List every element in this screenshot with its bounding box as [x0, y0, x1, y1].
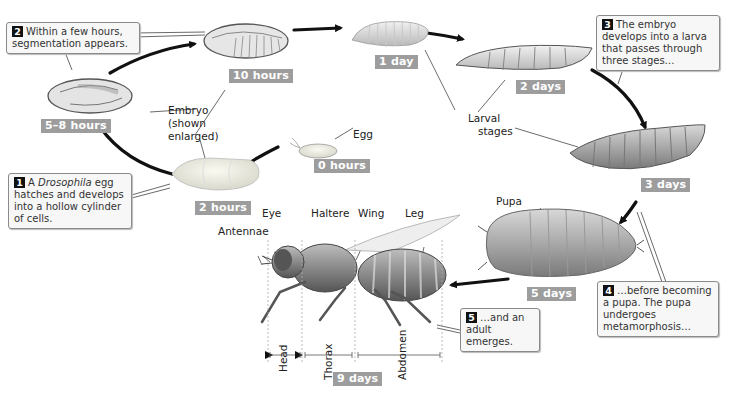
- label-larval-1: Larval: [468, 112, 500, 124]
- third-larva-illustration: [570, 125, 705, 169]
- pupa-illustration: [478, 209, 644, 277]
- label-larval-2: stages: [478, 125, 513, 137]
- segmenting-embryo-illustration: [48, 79, 132, 113]
- time-badge-5-days: 5 days: [527, 287, 576, 301]
- callout-number-4: 4: [603, 285, 614, 296]
- time-badge-10-hours: 10 hours: [229, 69, 293, 83]
- callout-4: 4…before becoming a pupa. The pupa under…: [597, 281, 719, 337]
- label-head: Head: [277, 345, 289, 372]
- segmented-embryo-illustration: [204, 24, 288, 58]
- label-eye: Eye: [262, 207, 281, 219]
- label-thorax: Thorax: [322, 344, 334, 380]
- callout-text-1-pre: A: [28, 177, 38, 188]
- time-badge-9-days: 9 days: [333, 372, 382, 386]
- label-leg: Leg: [405, 207, 424, 219]
- label-pupa: Pupa: [496, 195, 522, 207]
- callout-text-1-italic: Drosophila: [38, 177, 92, 188]
- callout-text-4: …before becoming a pupa. The pupa underg…: [603, 285, 712, 332]
- hollow-cylinder-illustration: [172, 158, 259, 190]
- callout-2: 2Within a few hours, segmentation appear…: [6, 22, 140, 54]
- egg-illustration: [290, 138, 337, 158]
- callout-text-3: The embryo develops into a larva that pa…: [602, 19, 707, 66]
- first-larva-illustration: [352, 22, 428, 47]
- time-badge-3-days: 3 days: [641, 178, 690, 192]
- time-badge-2-hours: 2 hours: [195, 201, 251, 215]
- time-badge-0-hours: 0 hours: [314, 159, 370, 173]
- time-badge-1-day: 1 day: [375, 55, 418, 69]
- adult-fly-illustration: [262, 215, 460, 325]
- callout-text-2: Within a few hours, segmentation appears…: [12, 26, 128, 49]
- callout-1: 1A Drosophila egg hatches and develops i…: [8, 173, 132, 229]
- callout-number-3: 3: [602, 19, 613, 30]
- second-larva-illustration: [456, 45, 592, 70]
- life-cycle-diagram: 5–8 hours 10 hours 1 day 2 days 3 days 5…: [0, 0, 729, 399]
- time-badge-2-days: 2 days: [516, 80, 565, 94]
- callout-number-5: 5: [466, 312, 477, 323]
- callout-5: 5…and an adult emerges.: [460, 308, 540, 352]
- label-embryo-2: (shown: [168, 117, 206, 129]
- label-embryo-3: enlarged): [168, 130, 219, 142]
- callout-3: 3The embryo develops into a larva that p…: [596, 15, 720, 71]
- callout-number-2: 2: [12, 26, 23, 37]
- time-badge-5-8-hours: 5–8 hours: [41, 119, 111, 133]
- label-egg: Egg: [353, 128, 373, 140]
- label-antennae: Antennae: [218, 225, 269, 237]
- label-haltere: Haltere: [311, 207, 349, 219]
- label-embryo-1: Embryo: [168, 104, 208, 116]
- label-wing: Wing: [358, 207, 384, 219]
- callout-number-1: 1: [14, 177, 25, 188]
- label-abdomen: Abdomen: [396, 330, 408, 380]
